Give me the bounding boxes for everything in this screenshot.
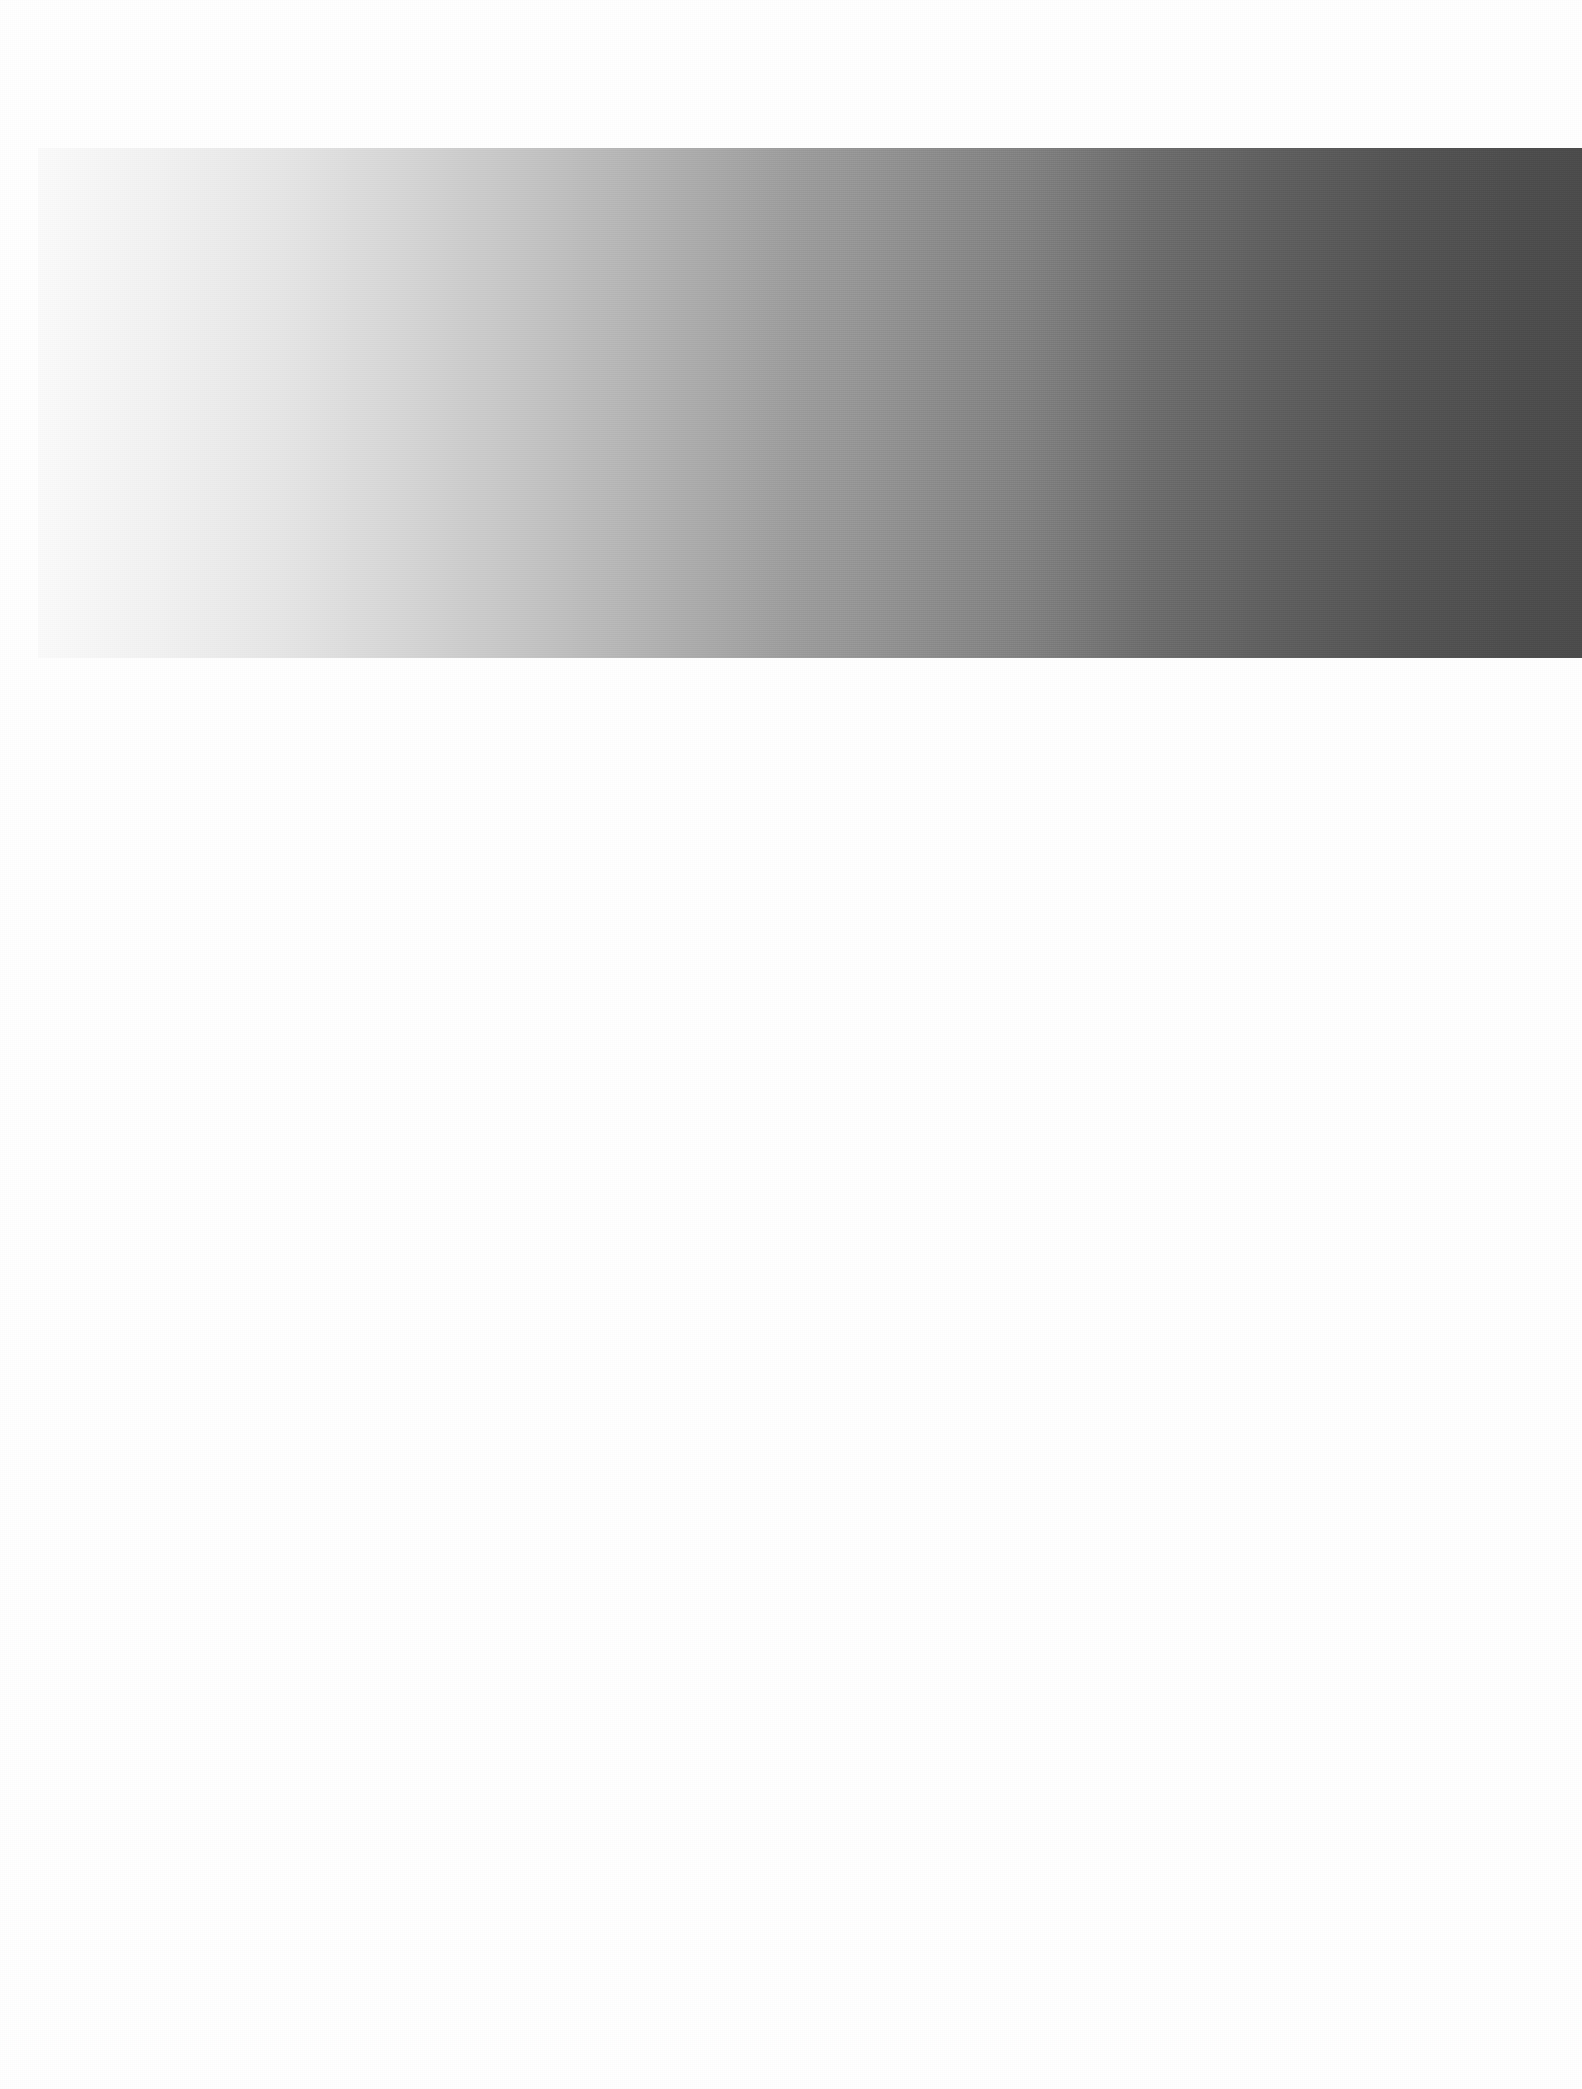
- gradient-band-fill: [38, 148, 1582, 658]
- grayscale-gradient-band: [38, 148, 1582, 658]
- page-canvas: [0, 0, 1582, 2089]
